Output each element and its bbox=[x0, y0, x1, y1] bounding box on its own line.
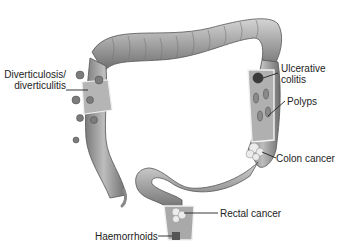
ascending-colon bbox=[85, 58, 126, 198]
label-ulcerative-colitis: Ulcerative colitis bbox=[281, 63, 325, 85]
diverticula-section bbox=[82, 80, 112, 114]
label-diverticulosis: Diverticulosis/ diverticulitis bbox=[2, 69, 66, 91]
label-haemorrhoids: Haemorrhoids bbox=[95, 231, 158, 242]
label-diverticulosis-line2: diverticulitis bbox=[2, 80, 66, 91]
label-diverticulosis-line1: Diverticulosis/ bbox=[2, 69, 66, 80]
haemorrhoid-mark bbox=[172, 232, 180, 240]
label-ulcerative-line1: Ulcerative bbox=[281, 63, 325, 74]
label-colon-cancer: Colon cancer bbox=[276, 153, 335, 164]
label-ulcerative-line2: colitis bbox=[281, 74, 325, 85]
label-polyps: Polyps bbox=[287, 96, 317, 107]
colon-illustration bbox=[0, 0, 337, 247]
sigmoid-colon bbox=[136, 162, 258, 212]
ulcer-lesion bbox=[253, 73, 263, 83]
label-rectal-cancer: Rectal cancer bbox=[220, 208, 281, 219]
colon-diagram: Diverticulosis/ diverticulitis Ulcerativ… bbox=[0, 0, 337, 247]
transverse-colon bbox=[92, 19, 282, 72]
